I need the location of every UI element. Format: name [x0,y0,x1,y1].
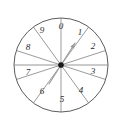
sector-label-4: 4 [79,85,84,95]
sector-label-2: 2 [91,41,96,51]
sector-label-5: 5 [60,94,65,104]
spinner-figure: 0123456789 [0,0,120,129]
sector-label-6: 6 [40,86,45,96]
spinner-wheel-graphic: 0123456789 [0,0,120,129]
sector-label-9: 9 [40,25,45,35]
sector-label-7: 7 [26,67,31,77]
spinner-pivot-dot [58,62,63,67]
sector-label-8: 8 [26,42,31,52]
sector-label-0: 0 [59,21,64,31]
sector-label-3: 3 [90,66,96,76]
sector-label-1: 1 [78,27,83,37]
